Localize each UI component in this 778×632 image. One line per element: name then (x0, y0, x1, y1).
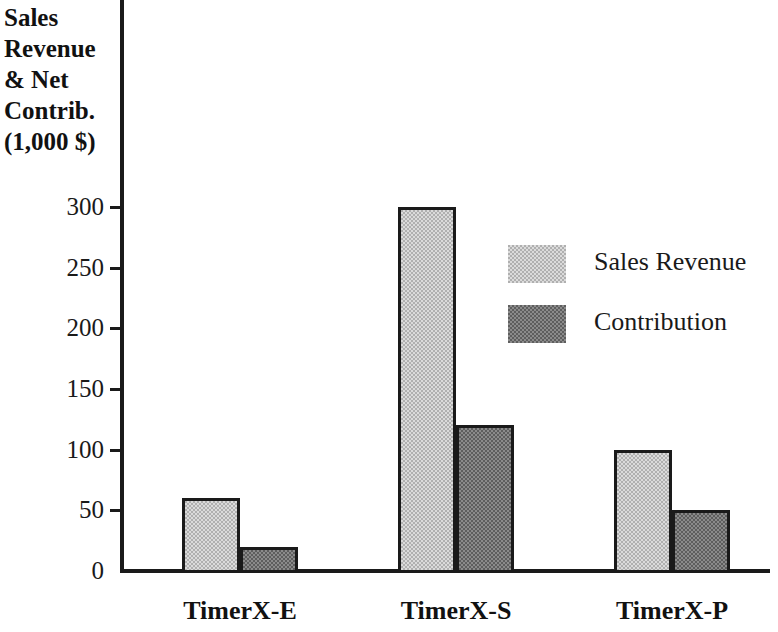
bar-timerx-s-sales-revenue (398, 207, 456, 573)
legend-label-contribution: Contribution (594, 305, 727, 339)
y-tick-label: 300 (30, 194, 104, 219)
y-axis-title-line-5: (1,000 $) (4, 126, 116, 157)
legend-swatch-sales-revenue (508, 245, 566, 283)
y-tick-label: 50 (30, 497, 104, 522)
legend-label-sales-revenue: Sales Revenue (594, 245, 746, 279)
y-axis-title-line-4: Contrib. (4, 95, 116, 126)
y-tick-mark (110, 267, 122, 270)
y-axis-title-line-2: Revenue (4, 33, 116, 64)
y-tick-mark (110, 327, 122, 330)
y-tick-label: 200 (30, 315, 104, 340)
bar-timerx-p-sales-revenue (614, 450, 672, 573)
y-tick-mark (110, 509, 122, 512)
bar-timerx-e-contribution (240, 547, 298, 573)
y-axis-title-line-3: & Net (4, 64, 116, 95)
y-tick-mark (110, 449, 122, 452)
y-tick-label: 250 (30, 255, 104, 280)
y-axis-title: Sales Revenue & Net Contrib. (1,000 $) (4, 2, 116, 157)
bar-timerx-p-contribution (672, 510, 730, 573)
y-tick-mark (110, 206, 122, 209)
bar-timerx-s-contribution (456, 425, 514, 573)
legend-swatch-contribution (508, 305, 566, 343)
y-tick-mark (110, 388, 122, 391)
y-axis-title-line-1: Sales (4, 2, 116, 33)
y-tick-label: 150 (30, 376, 104, 401)
y-axis-line (120, 0, 124, 573)
x-axis-label-timerx-s: TimerX-S (348, 596, 564, 626)
y-tick-label: 0 (30, 558, 104, 583)
x-axis-label-timerx-e: TimerX-E (132, 596, 348, 626)
x-axis-label-timerx-p: TimerX-P (564, 596, 778, 626)
chart-plot-area: Sales Revenue & Net Contrib. (1,000 $) 0… (0, 0, 778, 632)
y-tick-label: 100 (30, 437, 104, 462)
bar-timerx-e-sales-revenue (182, 498, 240, 573)
